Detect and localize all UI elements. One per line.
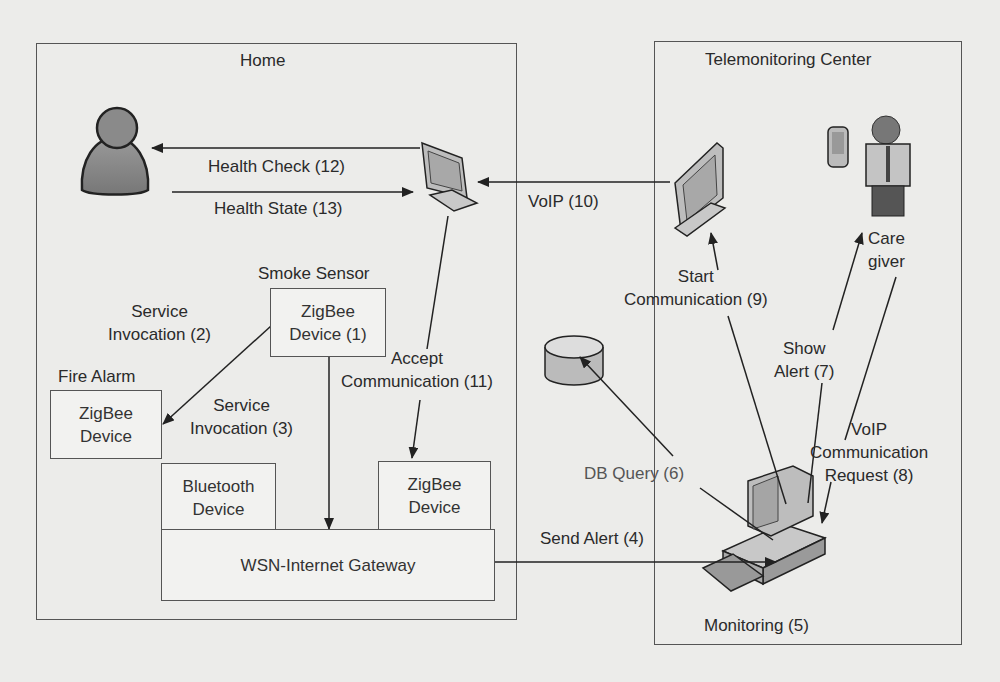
- home-monitor-icon: [422, 143, 477, 211]
- service-invocation-3-label: Service Invocation (3): [190, 394, 293, 440]
- fire-alarm-line1: ZigBee: [79, 402, 133, 425]
- caregiver-line2: giver: [868, 250, 905, 273]
- bluetooth-line1: Bluetooth: [183, 475, 255, 498]
- service-inv-2-line2: Invocation (2): [108, 323, 211, 346]
- show-alert-line1: Show: [774, 337, 834, 360]
- person-icon: [82, 108, 148, 195]
- voip-req-line1: VoIP: [810, 418, 928, 441]
- show-alert-line2: Alert (7): [774, 360, 834, 383]
- health-state-label: Health State (13): [214, 197, 343, 220]
- voip-label: VoIP (10): [528, 190, 599, 213]
- service-inv-3-line1: Service: [190, 394, 293, 417]
- fire-alarm-line2: Device: [80, 425, 132, 448]
- health-check-label: Health Check (12): [208, 155, 345, 178]
- caregiver-label: Care giver: [868, 227, 905, 273]
- show-alert-label: Show Alert (7): [774, 337, 834, 383]
- monitoring-computer-icon: [703, 466, 825, 591]
- send-alert-label: Send Alert (4): [540, 527, 644, 550]
- wsn-internet-gateway: WSN-Internet Gateway: [161, 529, 495, 601]
- zigbee-right-line2: Device: [409, 496, 461, 519]
- zigbee-right-line1: ZigBee: [408, 473, 462, 496]
- monitoring-label: Monitoring (5): [704, 614, 809, 637]
- smoke-sensor-line1: ZigBee: [301, 300, 355, 323]
- accept-communication-label: Accept Communication (11): [341, 347, 493, 393]
- accept-comm-line1: Accept: [341, 347, 493, 370]
- caregiver-icon: [828, 116, 910, 216]
- bluetooth-line2: Device: [193, 498, 245, 521]
- fire-alarm-device: ZigBee Device: [50, 390, 162, 459]
- db-query-label: DB Query (6): [584, 462, 684, 485]
- fire-alarm-caption: Fire Alarm: [58, 365, 135, 388]
- gateway-label: WSN-Internet Gateway: [241, 554, 416, 577]
- database-icon: [545, 336, 603, 385]
- voip-request-label: VoIP Communication Request (8): [810, 418, 928, 487]
- smoke-sensor-line2: Device (1): [289, 323, 366, 346]
- voip-req-line3: Request (8): [810, 464, 928, 487]
- service-inv-2-line1: Service: [108, 300, 211, 323]
- start-comm-line2: Communication (9): [624, 288, 768, 311]
- start-communication-label: Start Communication (9): [624, 265, 768, 311]
- accept-comm-line2: Communication (11): [341, 370, 493, 393]
- start-comm-line1: Start: [624, 265, 768, 288]
- center-monitor-icon: [675, 143, 725, 236]
- voip-req-line2: Communication: [810, 441, 928, 464]
- service-invocation-2-label: Service Invocation (2): [108, 300, 211, 346]
- bluetooth-device: Bluetooth Device: [161, 463, 276, 533]
- zigbee-device-right: ZigBee Device: [378, 461, 491, 531]
- caregiver-line1: Care: [868, 227, 905, 250]
- smoke-sensor-caption: Smoke Sensor: [258, 262, 370, 285]
- service-inv-3-line2: Invocation (3): [190, 417, 293, 440]
